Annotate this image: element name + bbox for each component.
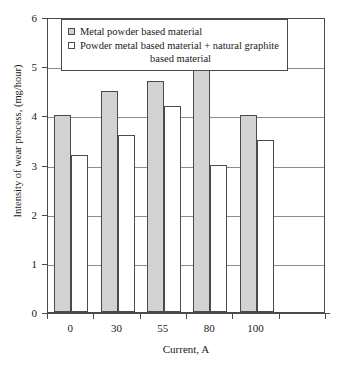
x-tick-mark (140, 314, 141, 319)
x-tick-label-100: 100 (226, 321, 286, 336)
x-tick-mark (93, 314, 94, 319)
y-tick-label: 0 (0, 305, 37, 321)
bar-series-b-30 (118, 135, 135, 312)
bar-chart: 0123456 Intensity of wear process, (mg/h… (0, 0, 347, 366)
bar-series-a-100 (240, 115, 257, 312)
bar-series-b-55 (164, 106, 181, 313)
y-tick-label: 6 (0, 10, 37, 26)
bar-series-b-80 (210, 165, 227, 313)
bar-series-b-0 (71, 155, 88, 312)
x-tick-mark (325, 314, 326, 319)
y-axis-title: Intensity of wear process, (mg/hour) (12, 31, 24, 251)
legend-label-series-b-line1: Powder metal based material + natural gr… (80, 39, 281, 52)
bar-series-a-0 (54, 115, 71, 312)
x-tick-mark (186, 314, 187, 319)
x-tick-mark (232, 314, 233, 319)
y-tick-mark (42, 264, 47, 265)
bar-series-a-55 (147, 81, 164, 312)
y-tick-mark (42, 166, 47, 167)
y-tick-mark (42, 67, 47, 68)
legend-entry-series-b: Powder metal based material + natural gr… (68, 39, 281, 65)
x-tick-mark (47, 314, 48, 319)
legend-swatch-icon-series-a (68, 28, 75, 35)
bar-series-a-30 (101, 91, 118, 312)
legend-label-series-b-line2: based material (80, 52, 281, 65)
x-axis-title: Current, A (47, 342, 325, 356)
legend-swatch-icon-series-b (68, 42, 75, 49)
x-tick-mark (279, 314, 280, 319)
legend-label-series-a: Metal powder based material (80, 25, 281, 38)
y-tick-mark (42, 215, 47, 216)
y-tick-label: 1 (0, 256, 37, 272)
y-axis-line (47, 18, 48, 314)
legend-label-series-b: Powder metal based material + natural gr… (80, 39, 281, 65)
bar-series-b-100 (257, 140, 274, 312)
legend-entry-series-a: Metal powder based material (68, 25, 281, 38)
legend: Metal powder based material Powder metal… (61, 19, 288, 71)
bar-series-a-80 (193, 66, 210, 312)
y-tick-mark (42, 116, 47, 117)
y-tick-mark (42, 18, 47, 19)
